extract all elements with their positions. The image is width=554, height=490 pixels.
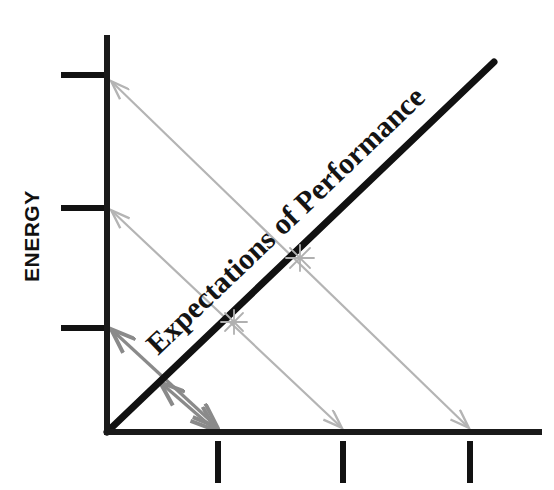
expectations-of-performance-label: Expectations of Performance <box>139 80 430 361</box>
gap-arrow-innermost <box>161 383 214 429</box>
diagram-canvas: ENERGY Expectations of Performance <box>0 0 554 490</box>
x-tick-group <box>218 441 470 483</box>
crossing-star-lower <box>221 310 247 334</box>
y-axis-title: ENERGY <box>20 190 43 282</box>
y-tick-group <box>61 75 104 328</box>
crossing-star-upper <box>286 245 314 271</box>
energy-expectations-figure: ENERGY Expectations of Performance <box>0 0 554 490</box>
